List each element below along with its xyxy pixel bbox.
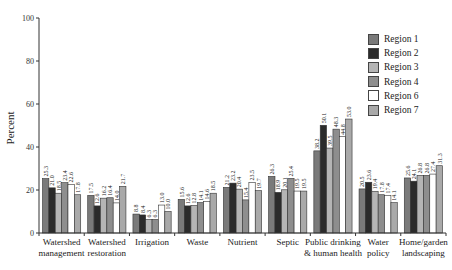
bar-value-label: 21.0: [49, 175, 55, 186]
legend-label: Region 7: [384, 105, 419, 115]
bar-group: 15.612.612.814.114.618.5: [178, 181, 216, 233]
y-tick-label: 40: [26, 143, 34, 152]
bar: [133, 214, 139, 233]
bar-value-label: 14.1: [198, 190, 204, 201]
bar: [49, 188, 55, 233]
bar: [288, 178, 294, 233]
bar-value-label: 6.3: [152, 210, 158, 218]
bar-value-label: 18.9: [275, 180, 281, 191]
bar: [94, 206, 100, 233]
bar-value-label: 25.6: [405, 165, 411, 176]
bar-value-label: 20.1: [282, 177, 288, 188]
bar-group: 21.223.220.415.423.519.7: [223, 170, 261, 233]
bar-value-label: 25.4: [288, 166, 294, 177]
bar: [43, 179, 49, 233]
legend-label: Region 3: [384, 62, 419, 72]
legend-swatch: [368, 34, 379, 45]
bar-value-label: 15.4: [243, 187, 249, 198]
bar-value-label: 8.4: [140, 205, 146, 213]
bar: [346, 119, 352, 233]
bar-value-label: 26.8: [424, 163, 430, 174]
y-tick-label: 0: [30, 229, 34, 238]
bar-value-label: 24.1: [411, 169, 417, 180]
legend-swatch: [368, 76, 379, 87]
bar-value-label: 18.5: [56, 181, 62, 192]
bar-value-label: 19.5: [301, 179, 307, 190]
bar-value-label: 23.6: [366, 170, 372, 181]
bar-value-label: 23.2: [230, 171, 236, 182]
bar-value-label: 38.2: [314, 138, 320, 149]
bar: [365, 182, 371, 233]
bar-value-label: 20.4: [237, 177, 243, 188]
bar: [359, 189, 365, 233]
bar: [210, 193, 216, 233]
x-category-label: Waste: [186, 237, 208, 247]
bar: [281, 190, 287, 233]
bar: [74, 195, 80, 233]
bar: [139, 215, 145, 233]
legend-item: Region 2: [368, 46, 419, 60]
legend-label: Region 2: [384, 48, 419, 58]
bar-value-label: 25.3: [43, 166, 49, 177]
bar-group: 25.624.126.826.827.431.3: [404, 153, 442, 233]
bar-value-label: 15.6: [179, 187, 185, 198]
legend-label: Region 1: [384, 34, 419, 44]
bar-groups: 25.321.018.523.422.617.817.512.616.216.4…: [43, 107, 443, 233]
bar: [68, 184, 74, 233]
bar: [204, 202, 210, 233]
bar: [404, 178, 410, 233]
bar: [423, 175, 429, 233]
bar: [372, 191, 378, 233]
bar: [300, 191, 306, 233]
bar-value-label: 48.3: [333, 117, 339, 128]
legend-label: Region 4: [384, 77, 419, 87]
x-category-label: Watershedmanagement: [39, 237, 85, 258]
bar-value-label: 10.0: [165, 199, 171, 210]
bar-value-label: 26.8: [417, 163, 423, 174]
bar-value-label: 17.8: [379, 182, 385, 193]
bar: [62, 183, 68, 233]
bar-group: 38.250.139.548.344.853.0: [314, 107, 352, 233]
bar-value-label: 17.4: [385, 183, 391, 194]
y-axis-label: Percent: [4, 112, 16, 145]
bar: [55, 193, 61, 233]
bar-value-label: 14.1: [391, 190, 397, 201]
bar-value-label: 14.6: [204, 189, 210, 200]
bar-value-label: 26.3: [269, 164, 275, 175]
x-category-label: Irrigation: [135, 237, 169, 247]
bar: [327, 148, 333, 233]
bar-value-label: 17.5: [88, 183, 94, 194]
bar-value-label: 44.8: [340, 124, 346, 135]
bar-value-label: 20.5: [359, 176, 365, 187]
legend-swatch: [368, 62, 379, 73]
bar-group: 20.523.619.417.817.414.1: [359, 170, 397, 233]
bar: [230, 183, 236, 233]
bar-value-label: 23.5: [249, 170, 255, 181]
bar: [436, 166, 442, 233]
bar: [320, 125, 326, 233]
bar-value-label: 19.4: [372, 179, 378, 190]
bar: [333, 129, 339, 233]
bar-group: 8.88.46.36.313.010.0: [133, 193, 171, 233]
bar: [191, 205, 197, 233]
bar-value-label: 50.1: [321, 113, 327, 124]
bar: [236, 189, 242, 233]
y-axis: 020406080100: [22, 14, 39, 238]
bar-value-label: 16.2: [101, 186, 107, 197]
bar: [411, 181, 417, 233]
legend-item: Region 3: [368, 60, 419, 74]
bar: [275, 192, 281, 233]
bar: [385, 196, 391, 233]
legend-swatch: [368, 90, 379, 101]
x-category-label: Watershedrestoration: [88, 237, 127, 258]
bar: [294, 191, 300, 233]
x-category-label: Home/gardenlandscaping: [399, 237, 448, 258]
bar: [417, 175, 423, 233]
bar: [158, 205, 164, 233]
bar-value-label: 19.7: [256, 178, 262, 189]
y-tick-label: 100: [22, 14, 34, 23]
legend-swatch: [368, 48, 379, 59]
legend-swatch: [368, 105, 379, 116]
bar: [165, 212, 171, 234]
bar-value-label: 31.3: [437, 153, 443, 164]
